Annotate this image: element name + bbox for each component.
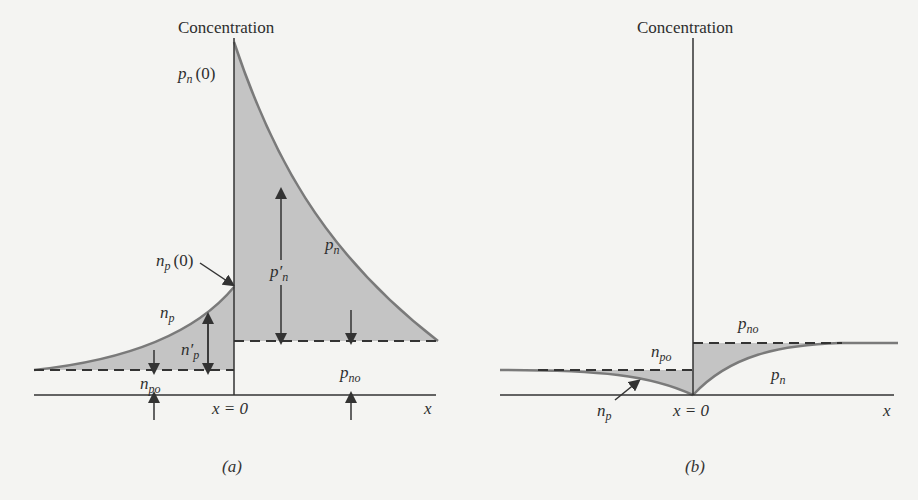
caption-b: (b)	[685, 457, 705, 476]
np-pointer-arrow-b	[615, 383, 636, 400]
np-label: np	[160, 303, 175, 325]
npo-label-b: npo	[651, 342, 672, 364]
pn-excess-area	[234, 42, 438, 341]
junction-label-b: x = 0	[672, 401, 710, 420]
np0-label: np(0)	[156, 251, 193, 273]
pn-label-b: pn	[770, 365, 786, 387]
panel-a: Concentration pn(0) np(0) np n′p npo pn …	[34, 18, 438, 476]
pn-label: pn	[324, 235, 340, 257]
junction-label-a: x = 0	[211, 399, 249, 418]
x-axis-label-b: x	[882, 401, 891, 420]
np-label-b: np	[597, 401, 612, 423]
pno-label-b: pno	[737, 314, 759, 336]
y-axis-label-b: Concentration	[637, 18, 734, 37]
y-axis-label-a: Concentration	[178, 18, 275, 37]
pn-deficit-area	[693, 343, 840, 395]
npo-label: npo	[140, 374, 161, 396]
np-excess-area	[34, 287, 234, 370]
pno-label: pno	[339, 363, 361, 385]
caption-a: (a)	[222, 457, 242, 476]
np0-pointer-arrow	[200, 263, 230, 283]
panel-b: Concentration pno npo pn np x = 0 x (b)	[500, 18, 898, 476]
x-axis-label-a: x	[423, 399, 432, 418]
minority-carrier-diagram: Concentration pn(0) np(0) np n′p npo pn …	[0, 0, 918, 500]
pn0-label: pn(0)	[177, 64, 215, 86]
